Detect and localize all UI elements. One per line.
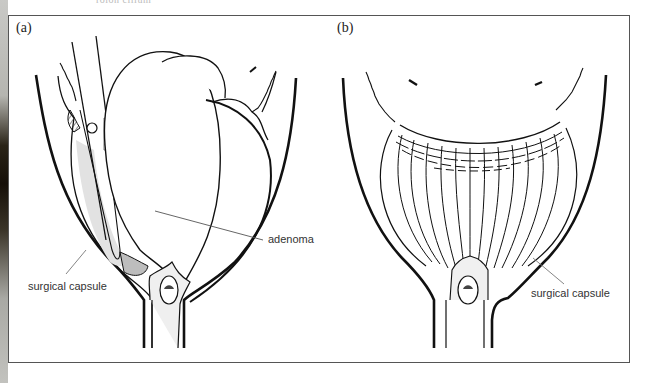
panel-b-label: (b) [337, 20, 353, 36]
label-adenoma: adenoma [268, 233, 314, 245]
panel-b-drawing [343, 68, 606, 348]
label-surgical-capsule-a: surgical capsule [28, 280, 107, 292]
label-surgical-capsule-b: surgical capsule [531, 287, 610, 299]
panel-a-label: (a) [16, 20, 32, 36]
scope-lens-icon [87, 123, 97, 133]
panel-a-drawing [36, 36, 296, 348]
prostate-diagram [0, 0, 651, 383]
